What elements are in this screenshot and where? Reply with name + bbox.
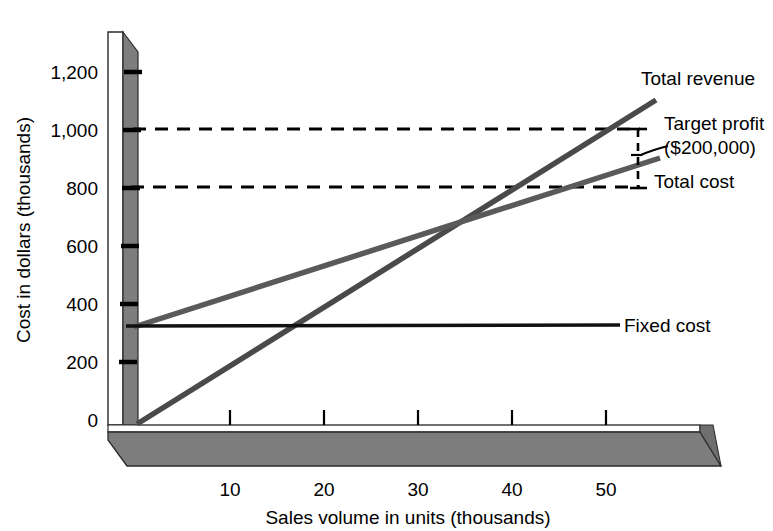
x-axis-ticks	[230, 410, 606, 425]
y-axis-tick-labels: 1,200 1,000 800 600 400 200 0	[50, 62, 98, 431]
y-axis-slab-side	[123, 32, 138, 425]
y-tick-label-0: 0	[87, 410, 98, 431]
total-revenue-label: Total revenue	[641, 68, 755, 89]
chart-canvas: 1,200 1,000 800 600 400 200 0 Cost in do…	[0, 0, 773, 531]
breakeven-chart: 1,200 1,000 800 600 400 200 0 Cost in do…	[0, 0, 773, 531]
x-axis-tick-labels: 10 20 30 40 50	[219, 479, 616, 500]
x-tick-label-50: 50	[595, 479, 616, 500]
total-revenue-line	[137, 100, 656, 424]
x-tick-label-30: 30	[407, 479, 428, 500]
y-tick-label-1000: 1,000	[50, 120, 98, 141]
x-tick-label-40: 40	[501, 479, 522, 500]
y-tick-label-600: 600	[66, 236, 98, 257]
x-axis-base-slab	[108, 425, 721, 466]
total-cost-line	[134, 158, 660, 327]
y-tick-label-800: 800	[66, 178, 98, 199]
data-series	[126, 100, 660, 424]
y-tick-label-400: 400	[66, 294, 98, 315]
x-tick-label-20: 20	[313, 479, 334, 500]
x-axis-base-lip	[108, 425, 700, 432]
target-profit-amount-label: ($200,000)	[664, 137, 756, 158]
y-axis-slab	[108, 32, 138, 425]
x-axis-title: Sales volume in units (thousands)	[265, 507, 550, 528]
total-cost-label: Total cost	[654, 171, 735, 192]
target-profit-label: Target profit	[664, 113, 765, 134]
x-tick-label-10: 10	[219, 479, 240, 500]
x-axis-base-face	[108, 432, 721, 466]
y-tick-label-200: 200	[66, 352, 98, 373]
y-axis-slab-front	[108, 32, 123, 425]
y-tick-label-1200: 1,200	[50, 62, 98, 83]
fixed-cost-line	[126, 325, 620, 326]
y-axis-title: Cost in dollars (thousands)	[13, 117, 34, 343]
fixed-cost-label: Fixed cost	[624, 315, 711, 336]
